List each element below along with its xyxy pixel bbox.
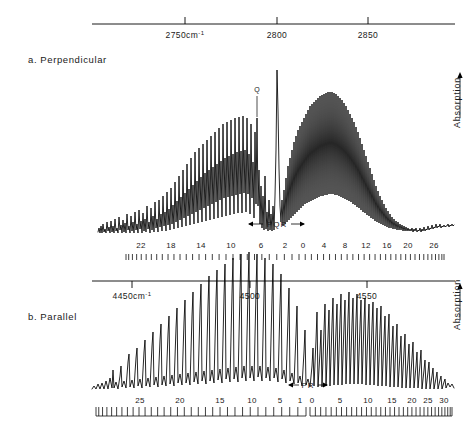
tick-value: 2750 (166, 30, 187, 40)
j-number-r: 12 (361, 241, 371, 250)
j-number-p: 1 (298, 396, 303, 405)
tick-unit-exponent: -1 (198, 30, 204, 36)
j-number-p: 10 (226, 241, 236, 250)
j-number-r: 20 (403, 241, 413, 250)
j-number-r: 20 (407, 396, 417, 405)
j-number-r: 5 (338, 396, 343, 405)
j-number-p: 2 (283, 241, 288, 250)
spectrum-figure: 2750cm-1 2800 2850 a. Perpendicular Q PQ… (0, 0, 471, 431)
axis-tick-label: 4550 (357, 291, 378, 301)
q-branch-label: Q (254, 86, 260, 94)
panel-b-y-axis-label: Absorption (452, 279, 463, 330)
j-number-p: 14 (196, 241, 206, 250)
j-number-r: 25 (423, 396, 433, 405)
j-number-r: 16 (382, 241, 392, 250)
j-number-p: 6 (259, 241, 264, 250)
j-number-r: 8 (343, 241, 348, 250)
tick-unit: cm (186, 30, 198, 40)
j-number-r: 0 (301, 241, 306, 250)
j-number-p: 25 (135, 396, 145, 405)
j-number-r: 26 (429, 241, 439, 250)
branch-label: PR (301, 381, 314, 390)
panel-b-title: b. Parallel (28, 311, 77, 322)
j-number-p: 18 (166, 241, 176, 250)
tick-value: 4450 (113, 291, 134, 301)
y-axis-label: Absorption (452, 77, 462, 128)
axis-tick-label: 2850 (358, 30, 379, 40)
panel-a-y-axis-label: Absorption (452, 72, 463, 128)
branch-label: PQR (267, 220, 287, 229)
y-axis-label: Absorption (452, 279, 462, 330)
tick-unit-exponent: -1 (145, 291, 151, 297)
j-number-r: 30 (439, 396, 449, 405)
j-number-p: 22 (136, 241, 146, 250)
j-number-p: 15 (215, 396, 225, 405)
j-number-r: 0 (310, 396, 315, 405)
j-number-r: 10 (363, 396, 373, 405)
j-number-p: 20 (175, 396, 185, 405)
j-number-p: 5 (278, 396, 283, 405)
j-number-r: 15 (387, 396, 397, 405)
j-number-p: 10 (247, 396, 257, 405)
axis-tick-label: 2800 (267, 30, 288, 40)
j-number-r: 4 (322, 241, 327, 250)
tick-unit: cm (133, 291, 145, 301)
panel-a-title: a. Perpendicular (28, 54, 107, 65)
